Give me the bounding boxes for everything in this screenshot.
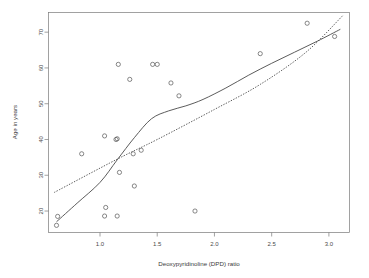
data-point xyxy=(305,21,309,25)
fit-lines-layer xyxy=(54,16,342,222)
y-tick-label: 70 xyxy=(38,28,44,35)
data-point xyxy=(132,184,136,188)
data-point xyxy=(104,205,108,209)
data-point xyxy=(193,209,197,213)
data-point xyxy=(128,77,132,81)
x-tick-label: 1.5 xyxy=(153,241,162,247)
x-tick-label: 2.0 xyxy=(210,241,219,247)
data-point xyxy=(155,62,159,66)
x-tick-label: 2.5 xyxy=(268,241,277,247)
y-axis-ticks: 203040506070 xyxy=(38,28,48,214)
smoothed-fit-path xyxy=(57,29,341,221)
data-point xyxy=(177,94,181,98)
data-point xyxy=(80,152,84,156)
plot-frame xyxy=(49,13,350,233)
y-axis-title: Age in years xyxy=(11,105,18,139)
data-point xyxy=(54,223,58,227)
y-tick-label: 40 xyxy=(38,135,44,142)
y-tick-label: 50 xyxy=(38,100,44,107)
x-axis-title: Deoxypyridinoline (DPD) ratio xyxy=(158,260,240,267)
x-tick-label: 1.0 xyxy=(96,241,105,247)
data-point xyxy=(102,214,106,218)
chart-canvas: 1.01.52.02.53.0 203040506070 Deoxypyridi… xyxy=(0,0,369,278)
data-point xyxy=(139,148,143,152)
x-axis-ticks: 1.01.52.02.53.0 xyxy=(96,233,334,247)
data-point xyxy=(56,214,60,218)
data-point xyxy=(151,62,155,66)
data-point xyxy=(116,62,120,66)
data-point xyxy=(169,81,173,85)
scatter-plot-figure: 1.01.52.02.53.0 203040506070 Deoxypyridi… xyxy=(0,0,369,278)
data-point xyxy=(102,134,106,138)
y-tick-label: 20 xyxy=(38,207,44,214)
regression-fit-path xyxy=(54,16,342,193)
x-tick-label: 3.0 xyxy=(325,241,334,247)
data-point xyxy=(115,214,119,218)
y-tick-label: 30 xyxy=(38,171,44,178)
data-point xyxy=(258,52,262,56)
data-point xyxy=(117,170,121,174)
data-point xyxy=(115,137,119,141)
data-point xyxy=(333,34,337,38)
data-point xyxy=(131,152,135,156)
y-tick-label: 60 xyxy=(38,64,44,71)
